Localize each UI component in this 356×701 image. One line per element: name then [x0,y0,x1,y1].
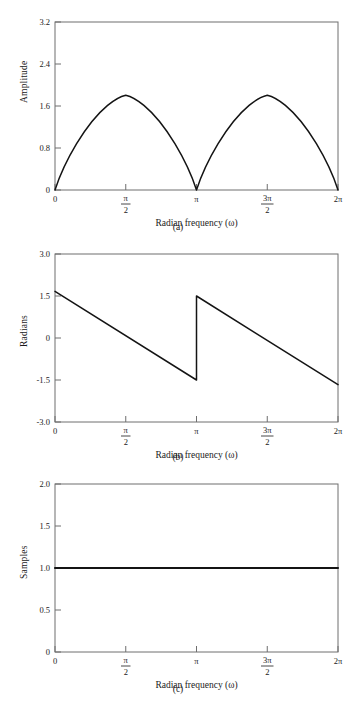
svg-text:π: π [124,655,129,665]
x-ticks-b [55,416,338,422]
x-tick-label-b-0: 0 [53,426,57,436]
svg-text:3π: 3π [263,655,272,665]
svg-text:π: π [124,425,129,435]
plot-area-a: 0 0.8 1.6 2.4 3.2 0 π 2 [0,0,356,236]
x-tick-label-b-2: π [194,426,199,436]
y-tick-label-a-4: 3.2 [39,17,50,27]
data-curve-a [55,95,338,190]
x-tick-label-a-4: 2π [334,194,343,204]
plot-area-c: 0 0.5 1.0 1.5 2.0 0 π 2 π [0,462,356,701]
x-tick-label-c-2: π [194,656,199,666]
y-tick-label-b-1: -1.5 [37,375,50,385]
plot-frame-a [55,22,338,190]
x-tick-label-c-4: 2π [334,656,343,666]
y-tick-label-c-1: 0.5 [39,605,50,615]
chart-c-svg: 0 0.5 1.0 1.5 2.0 0 π 2 π [0,462,356,701]
x-tick-label-c-1: π 2 [121,655,131,677]
subplot-b: Radians -3.0 -1.5 0 1.5 3.0 [0,232,356,464]
data-curve-b [55,291,338,384]
y-tick-label-c-3: 1.5 [39,521,50,531]
plot-area-b: -3.0 -1.5 0 1.5 3.0 0 π 2 π [0,232,356,464]
y-tick-label-a-1: 0.8 [39,143,50,153]
y-tick-label-c-2: 1.0 [39,563,50,573]
x-tick-label-a-0: 0 [53,194,57,204]
x-tick-label-a-2: π [194,194,199,204]
subplot-c: Samples 0 0.5 1.0 1.5 2.0 [0,462,356,701]
svg-text:π: π [124,193,129,203]
y-tick-label-c-0: 0 [46,647,50,657]
y-tick-label-b-3: 1.5 [39,291,50,301]
y-tick-label-b-2: 0 [46,333,50,343]
figure-page: Amplitude 0 0.8 1.6 2.4 3.2 [0,0,356,701]
svg-text:3π: 3π [263,193,272,203]
y-ticks-b [55,254,61,422]
x-tick-label-b-4: 2π [334,426,343,436]
x-tick-label-a-1: π 2 [121,193,131,215]
chart-b-svg: -3.0 -1.5 0 1.5 3.0 0 π 2 π [0,232,356,464]
x-tick-label-c-0: 0 [53,656,57,666]
y-tick-label-b-0: -3.0 [37,417,50,427]
y-tick-label-a-3: 2.4 [39,59,50,69]
y-tick-label-b-4: 3.0 [39,249,50,259]
x-ticks-c [55,646,338,652]
caption-wrap-c: (c) [0,676,356,700]
x-tick-label-a-3: 3π 2 [261,193,274,215]
svg-text:3π: 3π [263,425,272,435]
x-tick-label-c-3: 3π 2 [261,655,274,677]
caption-c: (c) [173,684,184,695]
y-tick-label-a-2: 1.6 [39,101,50,111]
subplot-a: Amplitude 0 0.8 1.6 2.4 3.2 [0,0,356,236]
y-tick-label-a-0: 0 [46,185,50,195]
y-ticks-a [55,22,61,190]
chart-a-svg: 0 0.8 1.6 2.4 3.2 0 π 2 [0,0,356,236]
y-tick-label-c-4: 2.0 [39,479,50,489]
